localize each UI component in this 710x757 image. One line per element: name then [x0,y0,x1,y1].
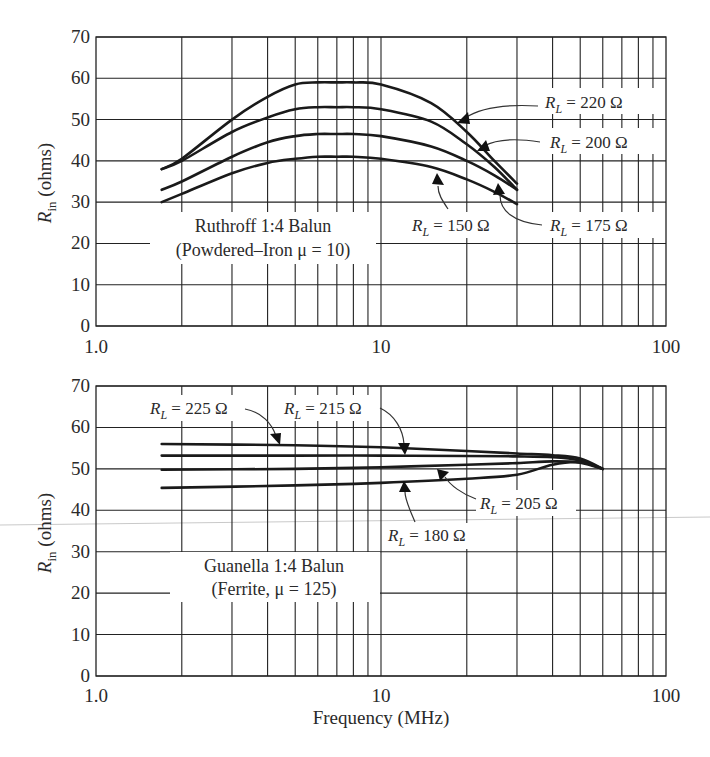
top-chart-subtitle: (Powdered–Iron μ = 10) [176,240,350,261]
y-tick-label: 30 [71,541,90,562]
y-tick-label: 70 [71,26,90,47]
y-tick-label: 20 [71,582,90,603]
y-tick-label: 40 [71,499,90,520]
leader-220 [465,106,538,119]
y-tick-label: 60 [71,416,90,437]
arrowhead-175-icon [493,183,505,195]
y-tick-label: 70 [71,375,90,396]
top-y-axis-title: Rin (ohms) [34,143,59,224]
top-chart-curves [162,82,517,204]
bottom-y-tick-labels: 010203040506070 [71,375,90,686]
arrowhead-225-icon [270,433,281,445]
scan-artifact-line [0,517,710,525]
leader-180 [405,492,415,522]
y-tick-label: 0 [81,315,91,336]
bottom-chart-grid [96,386,666,676]
bottom-y-axis-title: Rin (ohms) [34,493,59,574]
bottom-chart-subtitle: (Ferrite, μ = 125) [212,579,337,600]
top-x-tick-100: 100 [652,336,681,357]
bottom-x-tick-1: 1.0 [84,685,108,706]
bottom-x-tick-10: 10 [372,685,391,706]
y-tick-label: 20 [71,232,90,253]
y-tick-label: 60 [71,67,90,88]
arrowhead-150-icon [432,173,444,185]
top-chart-title: Ruthroff 1:4 Balun [195,216,332,236]
bottom-chart-curves [162,444,603,488]
arrowhead-220-icon [457,112,470,124]
bottom-chart-title: Guanella 1:4 Balun [204,556,344,576]
leader-200 [484,140,540,146]
y-tick-label: 40 [71,150,90,171]
top-x-tick-10: 10 [372,336,391,357]
y-tick-label: 10 [71,624,90,645]
top-chart-ruthroff: Ruthroff 1:4 Balun (Powdered–Iron μ = 10… [34,26,680,357]
x-axis-title: Frequency (MHz) [313,707,450,729]
bottom-chart-guanella: Guanella 1:4 Balun (Ferrite, μ = 125) RL… [34,375,680,729]
leader-150 [438,186,448,209]
top-y-tick-labels: 010203040506070 [71,26,90,336]
bottom-x-tick-100: 100 [652,685,681,706]
y-tick-label: 50 [71,458,90,479]
y-tick-label: 30 [71,191,90,212]
y-tick-label: 0 [81,665,91,686]
leader-215 [380,408,404,444]
top-x-tick-1: 1.0 [84,336,108,357]
balun-input-resistance-figure: Ruthroff 1:4 Balun (Powdered–Iron μ = 10… [0,0,710,757]
y-tick-label: 50 [71,109,90,130]
y-tick-label: 10 [71,274,90,295]
